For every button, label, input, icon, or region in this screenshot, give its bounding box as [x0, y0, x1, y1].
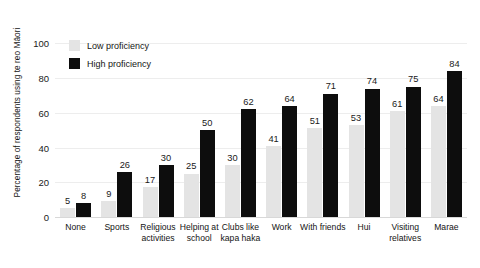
bar-low-proficiency — [349, 125, 364, 217]
bar-high-proficiency — [447, 71, 462, 217]
y-tick-label: 60 — [19, 107, 49, 118]
bar-group: 6175 — [390, 26, 421, 217]
bar-value-label: 71 — [318, 82, 344, 91]
x-tick-label: Marae — [417, 222, 475, 233]
y-axis-tick-labels: 020406080100 — [17, 26, 49, 217]
bar-group: 5171 — [307, 26, 338, 217]
bar-high-proficiency — [365, 89, 380, 217]
y-tick-label: 80 — [19, 73, 49, 84]
bar-high-proficiency — [282, 106, 297, 217]
y-tick-label: 100 — [19, 38, 49, 49]
bar-low-proficiency — [390, 111, 405, 217]
gridline — [55, 217, 467, 218]
bar-group: 6484 — [431, 26, 462, 217]
legend-item[interactable]: High proficiency — [69, 58, 151, 69]
y-tick-label: 0 — [19, 212, 49, 223]
y-tick-label: 40 — [19, 142, 49, 153]
bar-low-proficiency — [266, 146, 281, 217]
legend-item[interactable]: Low proficiency — [69, 40, 151, 51]
bar-high-proficiency — [406, 87, 421, 217]
bar-low-proficiency — [431, 106, 446, 217]
bar-low-proficiency — [307, 128, 322, 217]
chart-legend: Low proficiencyHigh proficiency — [69, 40, 151, 76]
bar-high-proficiency — [159, 165, 174, 217]
bar-value-label: 75 — [400, 75, 426, 84]
bar-value-label: 74 — [359, 77, 385, 86]
bar-value-label: 8 — [71, 192, 97, 201]
legend-label: Low proficiency — [87, 41, 149, 51]
bar-low-proficiency — [60, 208, 75, 217]
bar-value-label: 50 — [194, 119, 220, 128]
bar-low-proficiency — [101, 201, 116, 217]
legend-swatch-icon — [69, 40, 80, 51]
bar-high-proficiency — [117, 172, 132, 217]
bar-value-label: 64 — [277, 95, 303, 104]
bar-value-label: 62 — [235, 98, 261, 107]
bar-chart: Percentage of respondents using te reo M… — [0, 0, 480, 268]
legend-label: High proficiency — [87, 59, 151, 69]
bar-value-label: 26 — [112, 161, 138, 170]
bar-group: 3062 — [225, 26, 256, 217]
bar-low-proficiency — [184, 174, 199, 217]
bar-value-label: 84 — [441, 60, 467, 69]
y-tick-label: 20 — [19, 177, 49, 188]
bar-group: 4164 — [266, 26, 297, 217]
bar-high-proficiency — [323, 94, 338, 217]
legend-swatch-icon — [69, 58, 80, 69]
bar-high-proficiency — [200, 130, 215, 217]
bar-group: 5374 — [349, 26, 380, 217]
bar-high-proficiency — [76, 203, 91, 217]
bar-group: 2550 — [184, 26, 215, 217]
bar-high-proficiency — [241, 109, 256, 217]
bar-low-proficiency — [143, 187, 158, 217]
bar-low-proficiency — [225, 165, 240, 217]
bar-value-label: 30 — [153, 154, 179, 163]
